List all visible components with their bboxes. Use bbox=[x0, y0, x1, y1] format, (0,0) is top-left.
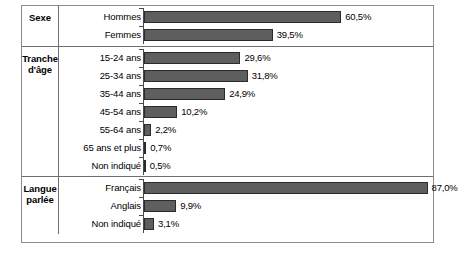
category-label: Anglais bbox=[59, 197, 141, 215]
bar-track: 31,8% bbox=[144, 70, 433, 82]
bar-row: 15-24 ans29,6% bbox=[59, 49, 433, 67]
bar-row: Anglais9,9% bbox=[59, 197, 433, 215]
bar-row: Non indiqué0,5% bbox=[59, 157, 433, 175]
bar-track: 0,7% bbox=[144, 142, 433, 154]
bar-track: 29,6% bbox=[144, 52, 433, 64]
bar-value-label: 2,2% bbox=[155, 124, 176, 136]
bar bbox=[144, 106, 177, 118]
section-label-line: Sexe bbox=[29, 12, 51, 23]
section-label: Tranched'âge bbox=[22, 47, 58, 75]
bar-value-label: 3,1% bbox=[158, 218, 179, 230]
category-label: Non indiqué bbox=[59, 215, 141, 233]
bar bbox=[144, 218, 154, 230]
bar-track: 0,5% bbox=[144, 160, 433, 172]
category-label: Hommes bbox=[59, 8, 141, 26]
category-label: 65 ans et plus bbox=[59, 139, 141, 157]
section-label-line: parlée bbox=[26, 194, 53, 205]
bar-value-label: 60,5% bbox=[345, 11, 371, 23]
bar-track: 87,0% bbox=[144, 182, 433, 194]
category-label: Français bbox=[59, 179, 141, 197]
bar-track: 10,2% bbox=[144, 106, 433, 118]
bar-value-label: 29,6% bbox=[244, 52, 270, 64]
bar-row: Français87,0% bbox=[59, 179, 433, 197]
chart-section: SexeHommes60,5%Femmes39,5% bbox=[22, 6, 433, 46]
bar bbox=[144, 142, 146, 154]
chart-section: LangueparléeFrançais87,0%Anglais9,9%Non … bbox=[22, 176, 433, 234]
chart-sections: SexeHommes60,5%Femmes39,5%Tranched'âge15… bbox=[22, 6, 433, 234]
bar bbox=[144, 182, 428, 194]
category-label: Femmes bbox=[59, 26, 141, 44]
bar-row: Femmes39,5% bbox=[59, 26, 433, 44]
section-label: Sexe bbox=[22, 6, 58, 23]
category-label: 55-64 ans bbox=[59, 121, 141, 139]
bar bbox=[144, 11, 341, 23]
bar-row: 65 ans et plus0,7% bbox=[59, 139, 433, 157]
bar-value-label: 0,5% bbox=[150, 160, 171, 172]
bar-row: Hommes60,5% bbox=[59, 8, 433, 26]
bar-value-label: 10,2% bbox=[181, 106, 207, 118]
bar-value-label: 31,8% bbox=[252, 70, 278, 82]
bar-value-label: 39,5% bbox=[277, 29, 303, 41]
bar-rows: Hommes60,5%Femmes39,5% bbox=[59, 8, 433, 44]
bar-row: 25-34 ans31,8% bbox=[59, 67, 433, 85]
bar-value-label: 24,9% bbox=[229, 88, 255, 100]
bar-track: 39,5% bbox=[144, 29, 433, 41]
bar-track: 9,9% bbox=[144, 200, 433, 212]
bar-rows: Français87,0%Anglais9,9%Non indiqué3,1% bbox=[59, 179, 433, 233]
section-label-line: Tranche bbox=[22, 53, 58, 64]
category-label: 35-44 ans bbox=[59, 85, 141, 103]
category-label: Non indiqué bbox=[59, 157, 141, 175]
bar bbox=[144, 124, 151, 136]
chart-section: Tranched'âge15-24 ans29,6%25-34 ans31,8%… bbox=[22, 46, 433, 176]
category-label: 45-54 ans bbox=[59, 103, 141, 121]
bar-row: 45-54 ans10,2% bbox=[59, 103, 433, 121]
section-label-line: Langue bbox=[23, 183, 56, 194]
bar-track: 60,5% bbox=[144, 11, 433, 23]
bar-value-label: 0,7% bbox=[150, 142, 171, 154]
bar bbox=[144, 88, 225, 100]
section-label-line: d'âge bbox=[28, 64, 52, 75]
bar-track: 2,2% bbox=[144, 124, 433, 136]
bar bbox=[144, 70, 248, 82]
chart-frame: SexeHommes60,5%Femmes39,5%Tranched'âge15… bbox=[21, 5, 434, 243]
category-label: 15-24 ans bbox=[59, 49, 141, 67]
bar-value-label: 9,9% bbox=[180, 200, 201, 212]
bar-track: 24,9% bbox=[144, 88, 433, 100]
section-label: Langueparlée bbox=[22, 177, 58, 205]
bar bbox=[144, 200, 176, 212]
bar-track: 3,1% bbox=[144, 218, 433, 230]
bar bbox=[144, 52, 240, 64]
bar bbox=[144, 160, 146, 172]
bar-row: 35-44 ans24,9% bbox=[59, 85, 433, 103]
bar bbox=[144, 29, 273, 41]
bar-row: Non indiqué3,1% bbox=[59, 215, 433, 233]
bar-rows: 15-24 ans29,6%25-34 ans31,8%35-44 ans24,… bbox=[59, 49, 433, 175]
bar-row: 55-64 ans2,2% bbox=[59, 121, 433, 139]
category-label: 25-34 ans bbox=[59, 67, 141, 85]
bar-value-label: 87,0% bbox=[432, 182, 458, 194]
